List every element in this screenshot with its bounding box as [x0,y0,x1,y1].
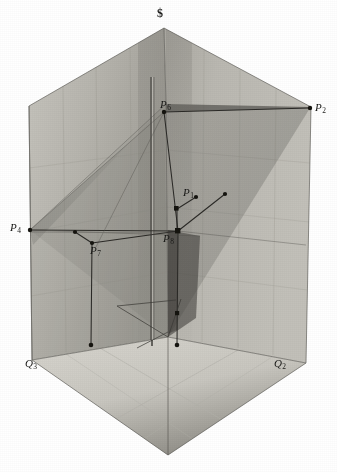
left-wall-panel [29,28,168,360]
point-p4-label: P4 [10,222,21,235]
figure-root: $ P6 P2 P1 P4 P8 P7 Q3 Q2 [0,0,337,472]
node-mid-right [175,311,179,315]
p8-subscript: 8 [170,237,174,246]
point-q2-label: Q2 [274,358,286,371]
p2-subscript: 2 [322,106,326,115]
p4-subscript: 4 [17,226,21,235]
point-p6-label: P6 [160,99,171,112]
p1-subscript: 1 [190,191,194,200]
node-p7-left [73,230,77,234]
p7-subscript: 7 [97,249,101,258]
p6-subscript: 6 [167,103,171,112]
node-floor-right [175,343,180,348]
node-p8 [175,228,180,233]
node-p1-stem [174,206,179,211]
point-p8-label: P8 [163,233,174,246]
node-floor-left [89,343,94,348]
apex-symbol-label: $ [157,7,163,19]
q3-subscript: 3 [33,362,37,371]
node-p2 [308,106,312,110]
q2-subscript: 2 [282,362,286,371]
floor-panel [32,337,306,472]
point-p7-label: P7 [90,245,101,258]
node-p4 [28,228,32,232]
point-p1-label: P1 [183,187,194,200]
node-right-upper [223,192,227,196]
point-q3-label: Q3 [25,358,37,371]
node-p1 [194,195,198,199]
point-p2-label: P2 [315,102,326,115]
